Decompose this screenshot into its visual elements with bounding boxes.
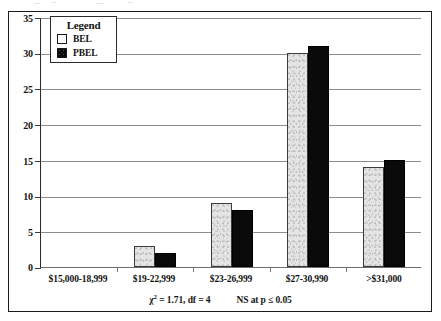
- y-tick-label-15: 15: [23, 156, 33, 167]
- chi-square-statistic: χ2 = 1.71, df = 4: [149, 295, 210, 305]
- legend-title: Legend: [51, 19, 116, 32]
- y-tick-label-5: 5: [28, 227, 33, 238]
- y-tick-label-35: 35: [23, 13, 33, 24]
- y-axis-tick-0: [35, 268, 41, 269]
- open-square-swatch-icon: [57, 34, 67, 44]
- bar-pbel-3: [232, 210, 253, 267]
- bar-bel-4: [287, 53, 308, 267]
- figure-container: 35 30 25 20 15 10 5 0 $15,000-18,999 $19…: [0, 0, 441, 321]
- legend-item-bel: BEL: [51, 32, 116, 46]
- statistic-value: = 1.71, df = 4: [157, 295, 210, 305]
- bar-bel-5: [363, 167, 384, 267]
- x-axis-tick: [117, 267, 118, 272]
- y-axis-tick-35: [35, 18, 41, 19]
- x-tick-label-2: $19-22,999: [133, 274, 176, 284]
- y-tick-label-30: 30: [23, 48, 33, 59]
- gridline-20: [41, 125, 421, 126]
- y-tick-label-20: 20: [23, 120, 33, 131]
- bar-bel-2: [134, 246, 155, 267]
- bar-pbel-5: [384, 160, 405, 267]
- bar-bel-3: [211, 203, 232, 267]
- y-tick-label-25: 25: [23, 84, 33, 95]
- legend-label-bel: BEL: [73, 34, 92, 44]
- x-axis-tick: [270, 267, 271, 272]
- x-axis-tick: [193, 267, 194, 272]
- significance-note: NS at p ≤ 0.05: [236, 295, 291, 305]
- y-axis-tick-30: [35, 54, 41, 55]
- scan-artifact: [34, 3, 40, 4]
- y-tick-label-10: 10: [23, 191, 33, 202]
- legend-item-pbel: PBEL: [51, 46, 116, 60]
- bar-pbel-2: [155, 253, 176, 267]
- chart-legend: Legend BEL PBEL: [50, 16, 117, 63]
- bar-pbel-4: [308, 46, 329, 267]
- y-axis-tick-25: [35, 89, 41, 90]
- scan-artifact: [96, 3, 104, 4]
- x-tick-label-5: >$31,000: [366, 274, 402, 284]
- x-tick-label-4: $27-30,990: [286, 274, 329, 284]
- y-axis-tick-5: [35, 232, 41, 233]
- y-tick-label-0: 0: [28, 262, 33, 273]
- gridline-25: [41, 89, 421, 90]
- scan-artifact: [128, 2, 133, 3]
- y-axis-tick-10: [35, 197, 41, 198]
- y-axis-tick-15: [35, 161, 41, 162]
- chart-footnote: χ2 = 1.71, df = 4NS at p ≤ 0.05: [0, 293, 441, 305]
- x-tick-label-1: $15,000-18,999: [49, 274, 108, 284]
- filled-square-swatch-icon: [57, 48, 67, 58]
- gridline-15: [41, 161, 421, 162]
- x-tick-label-3: $23-26,999: [210, 274, 253, 284]
- legend-label-pbel: PBEL: [73, 48, 97, 58]
- scan-artifact: [52, 2, 56, 3]
- y-axis-tick-20: [35, 125, 41, 126]
- x-axis-tick: [346, 267, 347, 272]
